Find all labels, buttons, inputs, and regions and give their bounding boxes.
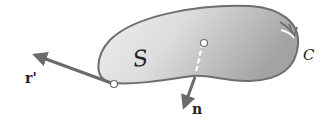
- label-normal-vector: n: [192, 101, 202, 117]
- surface-s: [98, 6, 298, 84]
- stokes-theorem-diagram: S C r' n: [0, 0, 332, 122]
- label-curve-c: C: [303, 46, 315, 64]
- tangent-point: [111, 81, 118, 88]
- normal-base-point: [201, 40, 208, 47]
- label-tangent-vector: r': [25, 70, 37, 86]
